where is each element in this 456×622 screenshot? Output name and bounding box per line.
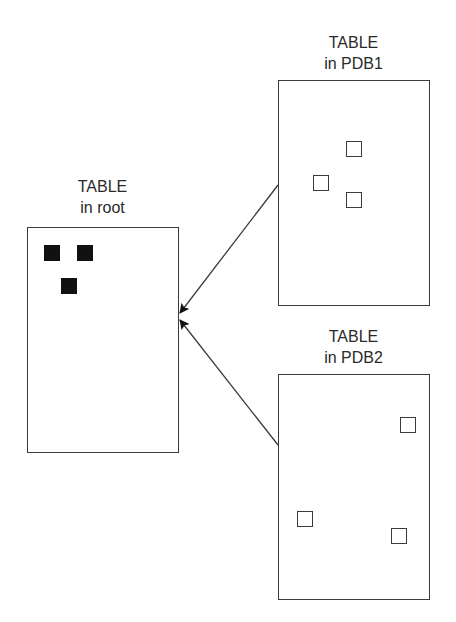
arrow-pdb1-to-root	[180, 185, 278, 313]
arrow-pdb2-to-root	[180, 320, 278, 445]
arrows-layer	[0, 0, 456, 622]
